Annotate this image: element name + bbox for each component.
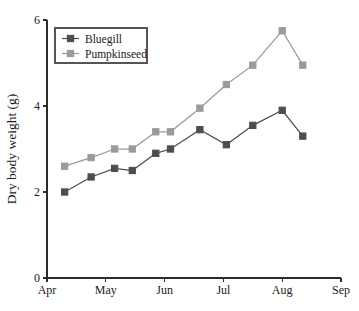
chart-legend: BluegillPumpkinseed	[55, 28, 147, 63]
data-point-marker	[167, 129, 173, 135]
data-point-marker	[153, 129, 159, 135]
data-point-marker	[88, 155, 94, 161]
x-tick-label: Aug	[272, 283, 293, 297]
data-point-marker	[197, 105, 203, 111]
data-point-marker	[279, 107, 285, 113]
legend-label-pumpkinseed: Pumpkinseed	[85, 48, 147, 61]
data-point-marker	[129, 146, 135, 152]
chart-axis-titles: Dry body weight (g)	[4, 94, 19, 205]
data-point-marker	[88, 174, 94, 180]
x-tick-label: Apr	[38, 283, 57, 297]
legend-marker-pumpkinseed	[67, 50, 73, 56]
data-point-marker	[250, 62, 256, 68]
x-tick-label: May	[95, 283, 117, 297]
y-tick-label: 6	[34, 13, 40, 27]
chart-figure: 0246AprMayJunJulAugSep BluegillPumpkinse…	[0, 0, 359, 311]
data-point-marker	[197, 127, 203, 133]
data-point-marker	[250, 122, 256, 128]
data-point-marker	[153, 150, 159, 156]
y-tick-label: 2	[34, 185, 40, 199]
series-line-bluegill	[65, 110, 303, 192]
data-point-marker	[223, 81, 229, 87]
line-chart: 0246AprMayJunJulAugSep BluegillPumpkinse…	[0, 0, 359, 311]
data-point-marker	[300, 133, 306, 139]
y-axis-title: Dry body weight (g)	[4, 94, 19, 205]
data-point-marker	[279, 28, 285, 34]
data-point-marker	[112, 146, 118, 152]
data-point-marker	[223, 142, 229, 148]
x-tick-label: Jun	[156, 283, 173, 297]
data-point-marker	[129, 167, 135, 173]
data-point-marker	[62, 163, 68, 169]
x-tick-label: Sep	[332, 283, 350, 297]
data-point-marker	[62, 189, 68, 195]
data-point-marker	[300, 62, 306, 68]
legend-label-bluegill: Bluegill	[85, 33, 122, 46]
data-point-marker	[112, 165, 118, 171]
y-tick-label: 4	[34, 99, 40, 113]
legend-marker-bluegill	[67, 35, 73, 41]
x-tick-label: Jul	[216, 283, 231, 297]
data-point-marker	[167, 146, 173, 152]
